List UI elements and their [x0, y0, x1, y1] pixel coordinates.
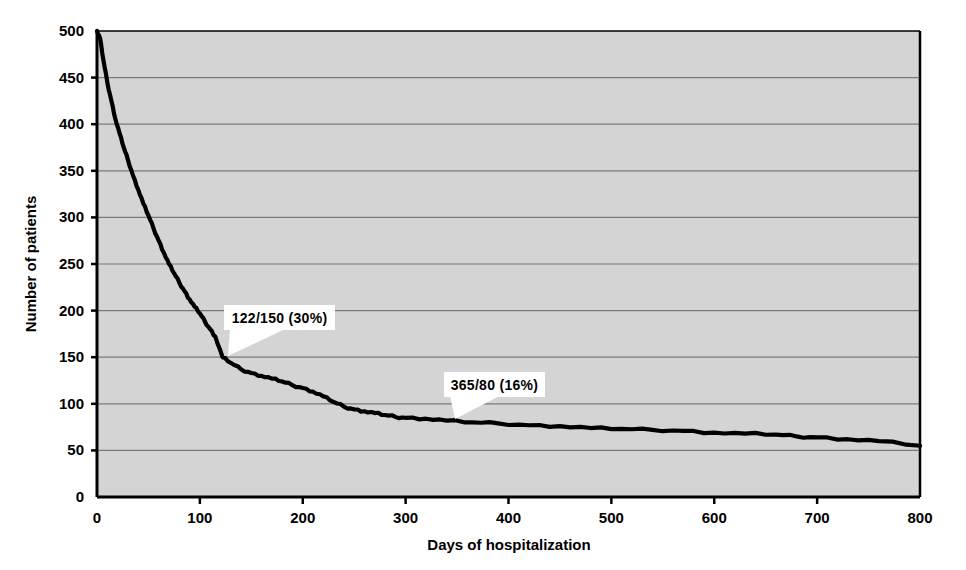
callout-label: 365/80 (16%) [451, 377, 539, 393]
y-tick-label: 300 [59, 208, 84, 225]
y-tick-label: 50 [67, 441, 84, 458]
y-tick-label: 350 [59, 162, 84, 179]
x-tick-label: 400 [496, 509, 521, 526]
y-tick-label: 500 [59, 22, 84, 39]
callout-label: 122/150 (30%) [232, 310, 328, 326]
y-tick-label: 250 [59, 255, 84, 272]
y-axis-title: Number of patients [22, 196, 39, 333]
y-tick-label: 450 [59, 69, 84, 86]
x-tick-label: 600 [702, 509, 727, 526]
y-tick-label: 150 [59, 348, 84, 365]
y-tick-label: 400 [59, 115, 84, 132]
x-tick-label: 300 [393, 509, 418, 526]
x-tick-label: 200 [290, 509, 315, 526]
x-tick-label: 0 [93, 509, 101, 526]
y-tick-label: 0 [76, 488, 84, 505]
x-tick-label: 800 [907, 509, 932, 526]
x-tick-label: 700 [805, 509, 830, 526]
y-tick-label: 100 [59, 395, 84, 412]
x-tick-label: 100 [187, 509, 212, 526]
x-axis-title: Days of hospitalization [427, 536, 590, 553]
x-tick-label: 500 [599, 509, 624, 526]
y-tick-label: 200 [59, 302, 84, 319]
chart-container: 050100150200250300350400450500 010020030… [0, 0, 966, 570]
survival-curve-chart: 050100150200250300350400450500 010020030… [0, 0, 966, 570]
